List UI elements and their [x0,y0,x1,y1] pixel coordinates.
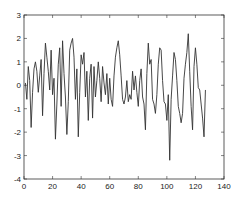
x-tick-label: 20 [48,182,57,191]
x-tick-label: 100 [160,182,174,191]
x-tick-label: 140 [217,182,231,191]
x-tick-label: 0 [22,182,27,191]
y-tick-label: -1 [14,105,22,114]
y-tick-label: 3 [17,11,22,20]
y-tick-label: -4 [14,175,22,184]
x-tick-label: 80 [134,182,143,191]
plot-area: 020406080100120140 -4-3-2-10123 [14,11,231,191]
y-tick-label: 0 [17,81,22,90]
y-tick-label: -2 [14,128,22,137]
y-tick-label: 1 [17,58,22,67]
x-tick-label: 120 [189,182,203,191]
y-tick-label: -3 [14,152,22,161]
line-chart: 020406080100120140 -4-3-2-10123 [0,0,243,200]
x-tick-label: 40 [77,182,86,191]
y-tick-label: 2 [17,34,22,43]
x-tick-label: 60 [105,182,114,191]
